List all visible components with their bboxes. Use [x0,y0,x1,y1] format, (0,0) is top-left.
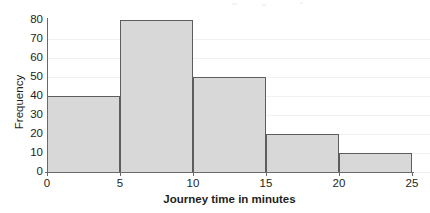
gridline [47,58,430,59]
histogram-bar [47,96,120,172]
x-tick-mark [412,172,413,176]
y-axis-label: Frequency [13,57,25,147]
x-tick-label: 15 [253,178,279,190]
y-tick-label: 70 [19,33,43,45]
plot-area [47,20,412,172]
y-tick-label: 0 [19,166,43,178]
x-tick-label: 10 [180,178,206,190]
y-axis-line [47,18,48,174]
scan-artifact [262,4,266,6]
x-tick-label: 0 [34,178,60,190]
x-tick-label: 20 [326,178,352,190]
scan-artifact [300,2,303,4]
x-axis-label: Journey time in minutes [47,193,412,205]
histogram-bar [193,77,266,172]
x-axis-line [45,172,414,173]
x-tick-mark [339,172,340,176]
histogram-bar [120,20,193,172]
x-tick-mark [193,172,194,176]
histogram-bar [266,134,339,172]
x-tick-label: 5 [107,178,133,190]
y-tick-label: 10 [19,147,43,159]
scan-artifact [232,3,237,5]
histogram-figure: 80 70 60 50 40 30 20 10 0 0 5 10 15 [0,0,430,213]
y-tick-label: 80 [19,14,43,26]
gridline [47,39,430,40]
x-tick-mark [47,172,48,176]
x-tick-mark [120,172,121,176]
histogram-bar [339,153,412,172]
x-tick-label: 25 [399,178,425,190]
x-tick-mark [266,172,267,176]
